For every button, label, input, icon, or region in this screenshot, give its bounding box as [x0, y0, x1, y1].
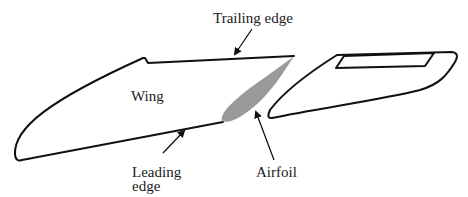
wing-label: Wing: [131, 89, 164, 104]
leading-edge-arrow: [163, 131, 184, 153]
trailing-edge-label: Trailing edge: [213, 11, 293, 26]
leading-edge-label-line2: edge: [132, 179, 160, 194]
wing-diagram: [0, 0, 468, 197]
airfoil-arrow: [256, 112, 274, 160]
airfoil-shape: [222, 56, 294, 122]
airfoil-label: Airfoil: [256, 165, 297, 180]
tail-inset-rectangle: [336, 53, 434, 68]
trailing-edge-arrow: [235, 29, 252, 54]
